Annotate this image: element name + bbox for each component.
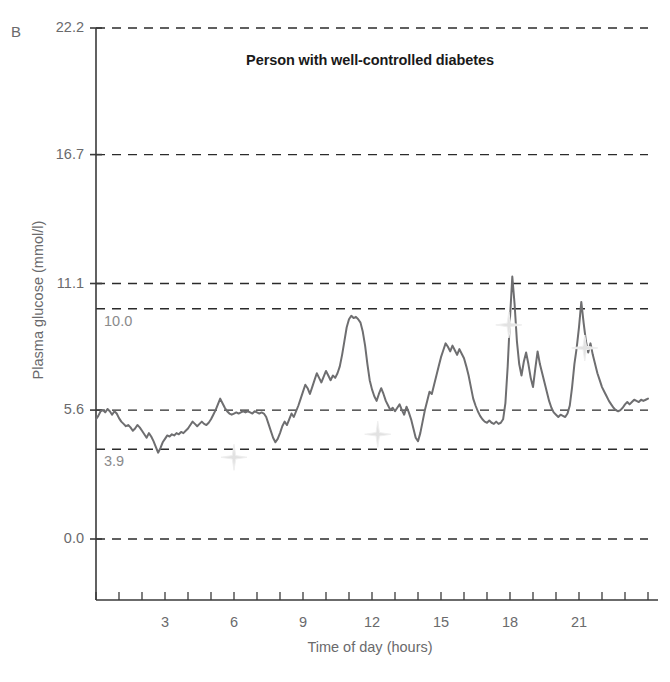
axis-group bbox=[90, 28, 658, 600]
event-markers-group bbox=[221, 312, 598, 470]
x-axis-label: Time of day (hours) bbox=[92, 639, 648, 655]
data-series-group bbox=[96, 277, 648, 453]
gridlines-group bbox=[96, 28, 648, 539]
x-tick-label-18: 18 bbox=[490, 614, 530, 630]
series-line-0 bbox=[96, 277, 648, 453]
star-marker-1 bbox=[221, 444, 247, 470]
y-tick-label-0.0: 0.0 bbox=[24, 531, 84, 546]
x-tick-marks-group bbox=[96, 592, 648, 600]
x-tick-label-12: 12 bbox=[352, 614, 392, 630]
y-tick-label-22.2: 22.2 bbox=[24, 20, 84, 35]
x-tick-label-21: 21 bbox=[559, 614, 599, 630]
star-marker-2 bbox=[365, 421, 391, 447]
star-marker-3 bbox=[496, 312, 522, 338]
x-tick-label-9: 9 bbox=[283, 614, 323, 630]
y-axis-label: Plasma glucose (mmol/l) bbox=[30, 200, 46, 400]
threshold-label-3.9: 3.9 bbox=[104, 454, 124, 469]
y-tick-label-11.1: 11.1 bbox=[24, 276, 84, 291]
threshold-lines-group bbox=[96, 309, 648, 449]
y-tick-label-16.7: 16.7 bbox=[24, 147, 84, 162]
threshold-label-10.0: 10.0 bbox=[104, 314, 132, 329]
x-tick-label-15: 15 bbox=[421, 614, 461, 630]
y-tick-label-5.6: 5.6 bbox=[24, 402, 84, 417]
figure-panel-b: B Person with well-controlled diabetes P… bbox=[0, 0, 670, 682]
x-tick-label-3: 3 bbox=[145, 614, 185, 630]
plot-area bbox=[0, 0, 670, 682]
chart-title: Person with well-controlled diabetes bbox=[92, 52, 648, 68]
panel-label: B bbox=[11, 23, 21, 40]
x-tick-label-6: 6 bbox=[214, 614, 254, 630]
